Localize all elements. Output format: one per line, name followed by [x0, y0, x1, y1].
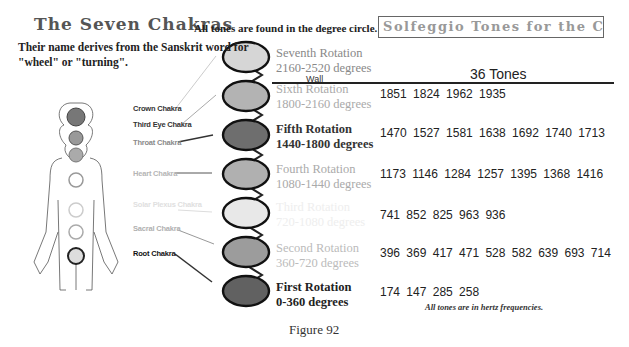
- diagram-subtitle: Their name derives from the Sanskrit wor…: [18, 40, 268, 70]
- tones-row-4: 1173 1146 1284 1257 1395 1368 1416: [380, 167, 603, 181]
- rotation-range: 1080-1440 degrees: [276, 177, 371, 192]
- rotation-name: Fifth Rotation: [276, 122, 373, 137]
- rotation-6: Sixth Rotation 1800-2160 degrees: [276, 82, 371, 112]
- rotation-name: Seventh Rotation: [276, 46, 371, 61]
- rotation-4: Fourth Rotation 1080-1440 degrees: [276, 162, 371, 192]
- rotation-name: Fourth Rotation: [276, 162, 371, 177]
- chakra-symbols-icon: [67, 108, 85, 264]
- tones-row-6: 1851 1824 1962 1935: [380, 87, 506, 101]
- rotation-range: 720-1080 degrees: [276, 215, 365, 230]
- tones-row-3: 741 852 825 963 936: [380, 208, 505, 222]
- figure-caption: Figure 92: [289, 322, 339, 338]
- chakra-label-solar-plexus: Solar Plexus Chakra: [133, 200, 202, 209]
- rotation-name: Third Rotation: [276, 200, 365, 215]
- hertz-note: All tones are in hertz frequencies.: [425, 302, 543, 312]
- chakra-label-throat: Throat Chakra: [133, 138, 181, 147]
- rotation-1: First Rotation 0-360 degrees: [276, 280, 351, 310]
- rotation-5: Fifth Rotation 1440-1800 degrees: [276, 122, 373, 152]
- tones-row-2: 396 369 417 471 528 582 639 693 714: [380, 246, 611, 260]
- leader-lines: [175, 56, 216, 282]
- rotation-2: Second Rotation 360-720 degrees: [276, 241, 359, 271]
- rotation-name: First Rotation: [276, 280, 351, 295]
- rotation-name: Second Rotation: [276, 241, 359, 256]
- chakra-label-sacral: Sacral Chakra: [133, 224, 180, 233]
- rotation-3: Third Rotation 720-1080 degrees: [276, 200, 365, 230]
- tones-row-1: 174 147 285 258: [380, 285, 479, 299]
- rotation-range: 2160-2520 degrees: [276, 61, 371, 76]
- chakra-label-third-eye: Third Eye Chakra: [133, 120, 192, 129]
- degree-note: All tones are found in the degree circle…: [194, 22, 377, 34]
- rotation-range: 0-360 degrees: [276, 295, 351, 310]
- chakra-label-heart: Heart Chakra: [133, 169, 177, 178]
- box-title: Solfeggio Tones for the Chakras: [378, 16, 604, 38]
- tones-row-5: 1470 1527 1581 1638 1692 1740 1713: [380, 126, 605, 140]
- chakra-label-root: Root Chakra: [133, 249, 175, 258]
- rotation-name: Sixth Rotation: [276, 82, 371, 97]
- chakra-label-crown: Crown Chakra: [133, 104, 181, 113]
- rotation-ovals: [223, 42, 269, 306]
- rotation-range: 1440-1800 degrees: [276, 137, 373, 152]
- rotation-7: Seventh Rotation 2160-2520 degrees: [276, 46, 371, 76]
- rotation-range: 360-720 degrees: [276, 256, 359, 271]
- tones-column-header: 36 Tones: [470, 66, 527, 82]
- rotation-range: 1800-2160 degrees: [276, 97, 371, 112]
